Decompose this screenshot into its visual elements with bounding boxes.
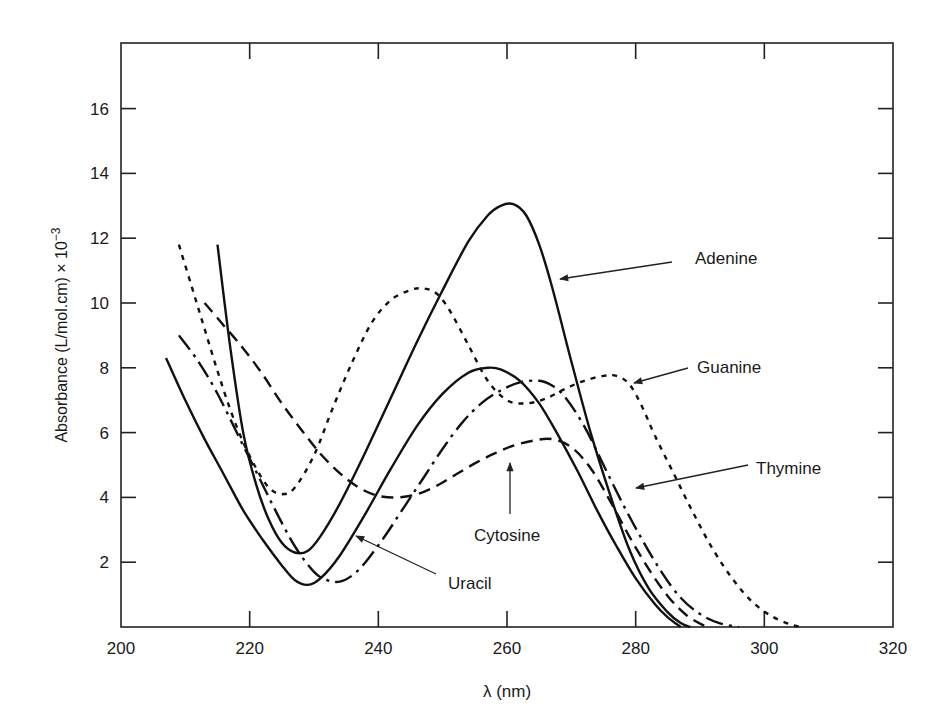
x-tick-label: 260 — [493, 639, 521, 658]
adenine-curve — [218, 203, 691, 627]
y-axis-title: Absorbance (L/mol.cm) × 10−3 — [49, 227, 70, 442]
x-tick-label: 220 — [235, 639, 263, 658]
y-axis-ticks: 246810121416 — [90, 100, 893, 573]
y-axis-title-exponent: −3 — [49, 227, 63, 241]
y-tick-label: 4 — [100, 488, 109, 507]
absorbance-spectrum-chart: 200220240260280300320 246810121416 λ (nm… — [0, 0, 951, 722]
adenine-arrow — [560, 262, 672, 279]
y-tick-label: 14 — [90, 164, 109, 183]
x-tick-label: 240 — [364, 639, 392, 658]
y-tick-label: 6 — [100, 424, 109, 443]
thymine-arrow — [636, 465, 748, 488]
thymine-label: Thymine — [756, 459, 821, 478]
y-tick-label: 2 — [100, 553, 109, 572]
y-tick-label: 12 — [90, 229, 109, 248]
guanine-curve — [179, 245, 803, 627]
y-tick-label: 16 — [90, 100, 109, 119]
x-axis-ticks: 200220240260280300320 — [107, 43, 907, 658]
x-tick-label: 300 — [750, 639, 778, 658]
uracil-arrow — [356, 536, 436, 574]
guanine-label: Guanine — [697, 358, 761, 377]
x-tick-label: 200 — [107, 639, 135, 658]
guanine-arrow — [634, 368, 688, 383]
cytosine-label: Cytosine — [474, 526, 540, 545]
y-tick-label: 8 — [100, 359, 109, 378]
adenine-label: Adenine — [695, 249, 757, 268]
y-tick-label: 10 — [90, 294, 109, 313]
y-axis-title-main: Absorbance (L/mol.cm) × 10 — [53, 241, 70, 443]
x-tick-label: 320 — [879, 639, 907, 658]
y-axis-title-group: Absorbance (L/mol.cm) × 10−3 — [49, 227, 70, 442]
x-axis-title: λ (nm) — [483, 682, 531, 701]
x-tick-label: 280 — [621, 639, 649, 658]
annotations: Adenine Guanine Thymine Cytosine Uracil — [356, 249, 821, 593]
uracil-label: Uracil — [448, 574, 491, 593]
